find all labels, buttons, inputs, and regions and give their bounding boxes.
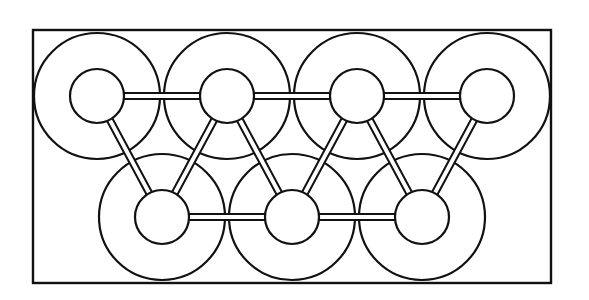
ring-lattice-diagram — [0, 0, 589, 300]
inner-ring-b2 — [265, 190, 319, 244]
inner-ring-t2 — [200, 69, 254, 123]
inner-ring-t3 — [330, 69, 384, 123]
inner-ring-b1 — [135, 190, 189, 244]
inner-ring-b3 — [395, 190, 449, 244]
inner-ring-t1 — [70, 69, 124, 123]
inner-ring-t4 — [460, 69, 514, 123]
